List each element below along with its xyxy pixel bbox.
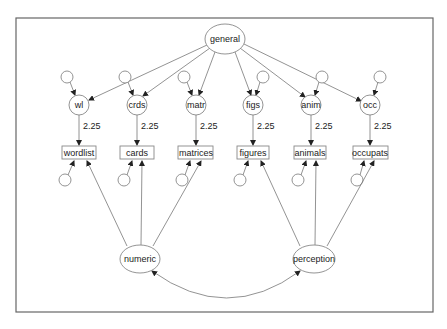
loading-matr: 2.25 <box>200 121 218 131</box>
loading-occ: 2.25 <box>374 121 392 131</box>
loading-wl: 2.25 <box>83 121 101 131</box>
loading-figs: 2.25 <box>257 121 275 131</box>
indicator-figures-label: figures <box>239 148 267 158</box>
diagram-frame <box>16 18 433 312</box>
node-figs-label: figs <box>246 100 261 110</box>
indicator-matrices-label: matrices <box>179 148 214 158</box>
node-anim-label: anim <box>301 100 321 110</box>
node-matr-label: matr <box>187 100 205 110</box>
node-numeric-label: numeric <box>124 254 157 264</box>
node-crds-label: crds <box>128 100 146 110</box>
path-diagram: wl crds matr figs anim occ 2.25 2.25 2.2… <box>0 0 447 329</box>
node-general-label: general <box>210 34 240 44</box>
indicator-animals-label: animals <box>294 148 326 158</box>
loading-anim: 2.25 <box>315 121 333 131</box>
node-perception-label: perception <box>293 254 335 264</box>
loading-crds: 2.25 <box>141 121 159 131</box>
indicator-cards-label: cards <box>126 148 149 158</box>
node-wl-label: wl <box>74 100 84 110</box>
indicator-wordlist-label: wordlist <box>63 148 95 158</box>
indicator-occupats-label: occupats <box>352 148 389 158</box>
node-occ-label: occ <box>363 100 378 110</box>
